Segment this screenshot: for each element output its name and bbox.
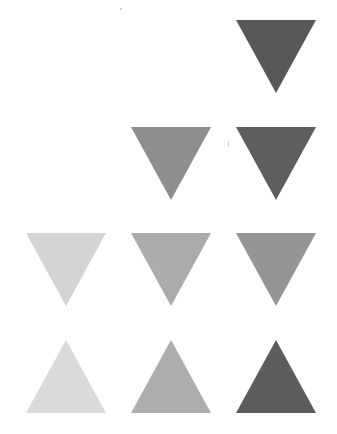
up-triangle-icon xyxy=(26,340,106,413)
triangle-r2-c2-down-medium xyxy=(131,127,211,200)
down-triangle-icon xyxy=(236,127,316,200)
triangle-r3-c2-down-medium-light xyxy=(131,233,211,306)
down-triangle-icon xyxy=(26,233,106,306)
down-triangle-icon xyxy=(236,20,316,93)
triangle-r2-c3-down-dark xyxy=(236,127,316,200)
triangle-r4-c1-up-light xyxy=(26,340,106,413)
triangle-r3-c3-down-medium xyxy=(236,233,316,306)
down-triangle-icon xyxy=(236,233,316,306)
down-triangle-icon xyxy=(131,127,211,200)
up-triangle-icon xyxy=(131,340,211,413)
triangle-r4-c2-up-medium-light xyxy=(131,340,211,413)
scan-speck xyxy=(120,8,122,10)
triangle-grid-canvas xyxy=(0,0,337,434)
triangle-r4-c3-up-dark xyxy=(236,340,316,413)
triangle-r3-c1-down-light xyxy=(26,233,106,306)
triangle-r1-c3-down-dark xyxy=(236,20,316,93)
up-triangle-icon xyxy=(236,340,316,413)
scan-speck xyxy=(228,141,229,146)
down-triangle-icon xyxy=(131,233,211,306)
